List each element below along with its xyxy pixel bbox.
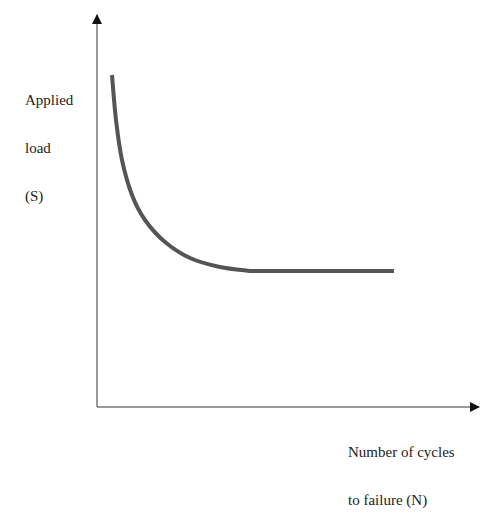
y-axis-label-line-3: (S) <box>25 188 73 204</box>
x-axis-label: Number of cycles to failure (N) <box>348 412 455 513</box>
y-axis-label: Applied load (S) <box>25 60 73 220</box>
y-axis-label-line-2: load <box>25 140 73 156</box>
x-axis-label-line-2: to failure (N) <box>348 492 455 508</box>
x-axis-label-line-1: Number of cycles <box>348 444 455 460</box>
sn-curve <box>112 75 394 271</box>
y-axis-label-line-1: Applied <box>25 92 73 108</box>
